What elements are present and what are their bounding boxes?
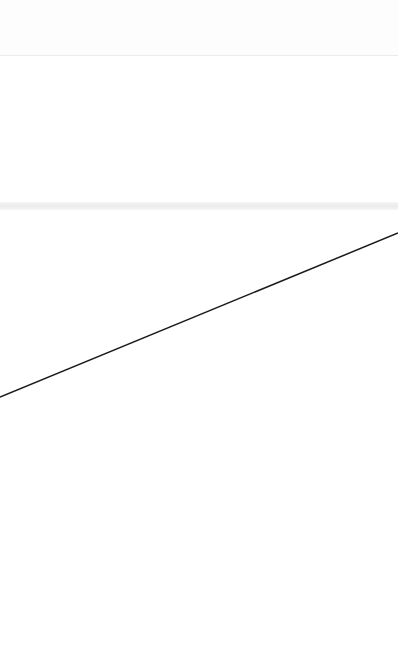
diagonal-line-layer: [0, 0, 398, 665]
diagonal-line: [0, 233, 398, 397]
